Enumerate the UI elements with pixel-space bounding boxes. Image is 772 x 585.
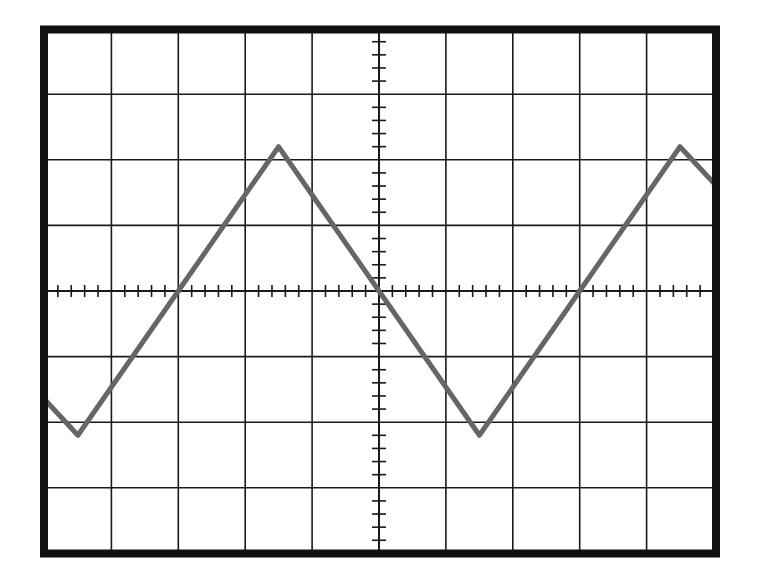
oscilloscope-screen [0, 0, 772, 585]
